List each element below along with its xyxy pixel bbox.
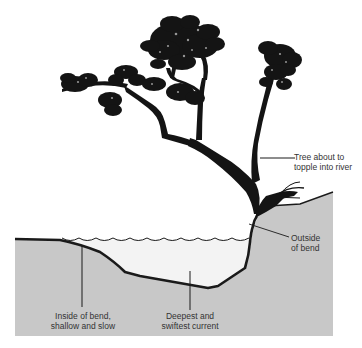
tree-illustration [60, 15, 304, 218]
river-bend-diagram [0, 0, 362, 348]
label-inside-of-bend: Inside of bend, shallow and slow [48, 311, 118, 331]
tree-trunk [188, 138, 260, 214]
label-deepest-current: Deepest and swiftest current [155, 311, 225, 331]
label-tree-topple: Tree about to topple into river [294, 152, 352, 172]
label-outside-of-bend: Outside of bend [291, 233, 320, 253]
water-surface-waves [62, 238, 249, 241]
